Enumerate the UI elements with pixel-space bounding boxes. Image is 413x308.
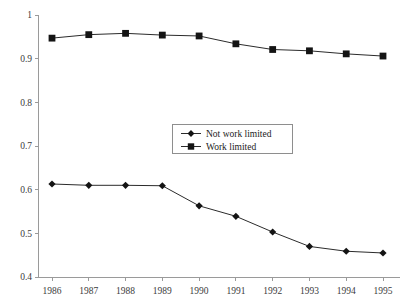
data-point-marker	[379, 249, 386, 256]
data-point-marker	[343, 248, 350, 255]
x-axis-tick-label: 1995	[374, 286, 393, 296]
y-axis-tick-label: 1	[27, 10, 32, 20]
y-axis-tick-label: 0.6	[20, 185, 32, 195]
data-point-marker	[269, 228, 276, 235]
data-point-marker	[122, 182, 129, 189]
y-axis-tick-label: 0.9	[20, 54, 32, 64]
data-point-marker	[306, 47, 313, 54]
x-axis-tick-label: 1993	[300, 286, 319, 296]
data-point-marker	[159, 182, 166, 189]
data-point-marker	[380, 53, 387, 60]
data-point-marker	[269, 46, 276, 53]
legend-label: Work limited	[206, 142, 256, 152]
y-axis-tick-label: 0.8	[20, 98, 32, 108]
x-axis-tick-label: 1992	[263, 286, 282, 296]
data-point-marker	[232, 213, 239, 220]
y-axis-tick-label: 0.7	[20, 141, 32, 151]
x-axis-tick-label: 1994	[337, 286, 356, 296]
data-point-marker	[159, 32, 166, 39]
data-point-marker	[343, 50, 350, 57]
line-chart-plot: 0.40.50.60.70.80.91 19861987198819891990…	[0, 0, 413, 308]
x-axis-tick-label: 1991	[226, 286, 245, 296]
data-point-marker	[306, 243, 313, 250]
legend-label: Not work limited	[206, 129, 272, 139]
data-point-marker	[122, 30, 129, 37]
x-axis-tick-label: 1990	[190, 286, 209, 296]
data-point-marker	[49, 35, 56, 42]
x-axis-tick-label: 1988	[116, 286, 135, 296]
chart-legend: Not work limitedWork limited	[172, 124, 292, 153]
data-point-marker	[232, 40, 239, 47]
chart-container: 0.40.50.60.70.80.91 19861987198819891990…	[0, 0, 413, 308]
data-point-marker	[196, 202, 203, 209]
x-axis-tick-label: 1986	[43, 286, 62, 296]
y-axis-tick-label: 0.5	[20, 229, 32, 239]
data-point-marker	[85, 182, 92, 189]
x-axis-tick-label: 1989	[153, 286, 172, 296]
legend-marker-square	[188, 143, 194, 149]
series-line-not-work-limited	[52, 184, 383, 253]
series-line-work-limited	[52, 33, 383, 56]
x-axis-tick-group: 1986198719881989199019911992199319941995	[43, 277, 393, 296]
data-point-marker	[48, 180, 55, 187]
data-point-marker	[196, 33, 203, 40]
y-axis-tick-group: 0.40.50.60.70.80.91	[20, 10, 38, 282]
y-axis-tick-label: 0.4	[20, 272, 32, 282]
x-axis-tick-label: 1987	[79, 286, 98, 296]
data-point-marker	[85, 31, 92, 38]
